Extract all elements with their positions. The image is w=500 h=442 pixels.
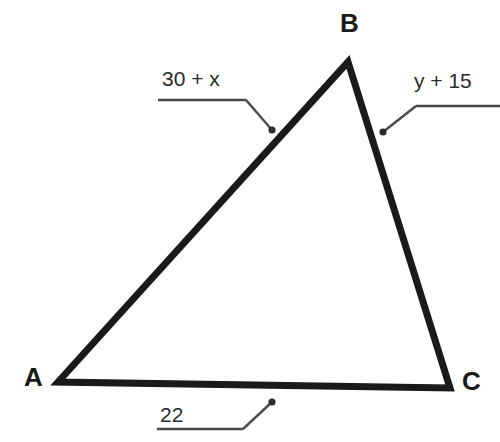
side-length-label-ab: 30 + x: [162, 68, 220, 89]
leader-dot-side-bc: [379, 128, 386, 135]
leader-dot-side-ab: [268, 126, 275, 133]
vertex-label-c: C: [462, 368, 481, 394]
side-length-label-ac: 22: [160, 404, 183, 425]
vertex-label-a: A: [24, 364, 43, 390]
vertex-label-b: B: [340, 10, 359, 36]
triangle-diagram-svg: [0, 0, 500, 442]
leader-dot-side-ac: [268, 398, 275, 405]
geometry-figure-canvas: B A C 30 + x y + 15 22: [0, 0, 500, 442]
figure-background: [0, 0, 500, 442]
side-length-label-bc: y + 15: [414, 70, 472, 91]
